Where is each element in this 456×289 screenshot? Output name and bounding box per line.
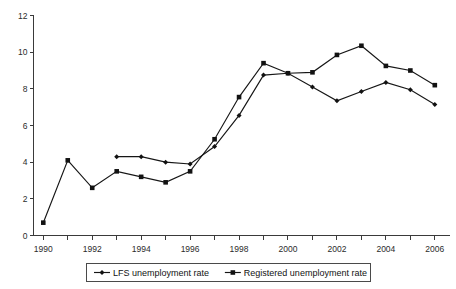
x-tick-label: 1996 bbox=[181, 244, 200, 254]
data-point-marker bbox=[237, 95, 242, 100]
chart-legend: LFS unemployment rateRegistered unemploy… bbox=[86, 264, 370, 282]
legend-square-icon bbox=[231, 270, 236, 275]
series-lfs bbox=[114, 71, 437, 167]
data-point-marker bbox=[114, 154, 119, 159]
legend-entry-registered[interactable]: Registered unemployment rate bbox=[225, 268, 367, 278]
unemployment-rate-line-chart: 0246810121990199219941996199820002002200… bbox=[0, 0, 456, 289]
chart-canvas: 0246810121990199219941996199820002002200… bbox=[0, 0, 456, 289]
data-point-marker bbox=[90, 186, 95, 191]
data-point-marker bbox=[139, 175, 144, 180]
data-point-marker bbox=[408, 68, 413, 73]
data-point-marker bbox=[433, 83, 438, 88]
data-point-marker bbox=[188, 169, 193, 174]
y-tick-label: 2 bbox=[23, 194, 28, 204]
y-tick-label: 6 bbox=[23, 121, 28, 131]
data-point-marker bbox=[383, 80, 388, 85]
legend-label: LFS unemployment rate bbox=[113, 268, 209, 278]
x-tick-label: 2006 bbox=[425, 244, 444, 254]
data-point-marker bbox=[359, 43, 364, 48]
data-point-marker bbox=[310, 85, 315, 90]
data-point-marker bbox=[65, 158, 70, 163]
data-point-marker bbox=[432, 102, 437, 107]
x-tick-label: 2002 bbox=[327, 244, 346, 254]
y-tick-label: 10 bbox=[18, 47, 28, 57]
legend-label: Registered unemployment rate bbox=[244, 268, 367, 278]
data-point-marker bbox=[212, 137, 217, 142]
series-line bbox=[117, 73, 435, 164]
data-point-marker bbox=[261, 73, 266, 78]
y-tick-label: 0 bbox=[23, 231, 28, 241]
series-registered bbox=[41, 43, 437, 225]
y-tick-label: 12 bbox=[18, 11, 28, 21]
data-point-marker bbox=[163, 180, 168, 185]
data-point-marker bbox=[261, 61, 266, 66]
data-point-marker bbox=[334, 98, 339, 103]
data-point-marker bbox=[384, 64, 389, 69]
x-tick-label: 1994 bbox=[132, 244, 151, 254]
series-line bbox=[43, 46, 435, 223]
data-point-marker bbox=[163, 160, 168, 165]
x-tick-label: 1998 bbox=[230, 244, 249, 254]
data-point-marker bbox=[310, 70, 315, 75]
y-tick-label: 8 bbox=[23, 84, 28, 94]
x-tick-label: 2000 bbox=[279, 244, 298, 254]
data-point-marker bbox=[408, 87, 413, 92]
data-point-marker bbox=[139, 154, 144, 159]
data-point-marker bbox=[335, 53, 340, 58]
data-point-marker bbox=[359, 89, 364, 94]
x-tick-label: 1992 bbox=[83, 244, 102, 254]
y-tick-label: 4 bbox=[23, 157, 28, 167]
x-tick-label: 1990 bbox=[34, 244, 53, 254]
data-point-marker bbox=[114, 169, 119, 174]
data-point-marker bbox=[41, 220, 46, 225]
data-point-marker bbox=[286, 71, 291, 76]
x-tick-label: 2004 bbox=[376, 244, 395, 254]
